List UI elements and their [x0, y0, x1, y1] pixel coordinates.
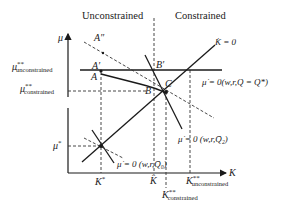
- header-constrained: Constrained: [175, 11, 226, 22]
- diagram-canvas: [0, 0, 292, 217]
- label-a: A: [91, 72, 97, 82]
- x-tick-k-constrained: K**constrained: [162, 190, 198, 200]
- label-mu-dot-q2: μ̇ = 0 (w,r,Q̄₂): [178, 135, 228, 144]
- point-k-star: [99, 144, 103, 148]
- x-tick-k-unconstrained: K**unconstrained: [186, 176, 228, 186]
- header-unconstrained: Unconstrained: [82, 11, 143, 22]
- point-c: [164, 90, 168, 94]
- mu-dot-q0-line: [92, 130, 114, 163]
- label-b-prime: B′: [156, 60, 164, 70]
- x-tick-k-star: K*: [95, 177, 105, 187]
- label-k-dot: K̇ = 0: [215, 38, 236, 47]
- y-tick-mu-unconstrained: μ**unconstrained: [12, 62, 53, 72]
- label-mu-dot-q-star: μ̇ = 0(w,r,Q = Q*): [202, 78, 268, 87]
- a-double-prime-dot: [102, 52, 104, 54]
- label-c: C: [165, 79, 172, 89]
- y-tick-mu-star: μ*: [53, 141, 62, 151]
- phase-diagram: Unconstrained Constrained μ K μ**unconst…: [0, 0, 292, 217]
- label-b: B: [145, 86, 151, 96]
- x-tick-k-hat: K̂: [150, 176, 157, 186]
- label-a-prime: A′: [92, 61, 100, 71]
- y-axis-label: μ: [58, 33, 63, 43]
- label-a-double-prime: A″: [94, 33, 104, 43]
- label-mu-dot-q0: μ̇ = 0 (w,r,Q̄₀): [117, 160, 167, 169]
- x-axis-label: K: [229, 168, 236, 178]
- y-tick-mu-constrained: μ**constrained: [20, 84, 54, 94]
